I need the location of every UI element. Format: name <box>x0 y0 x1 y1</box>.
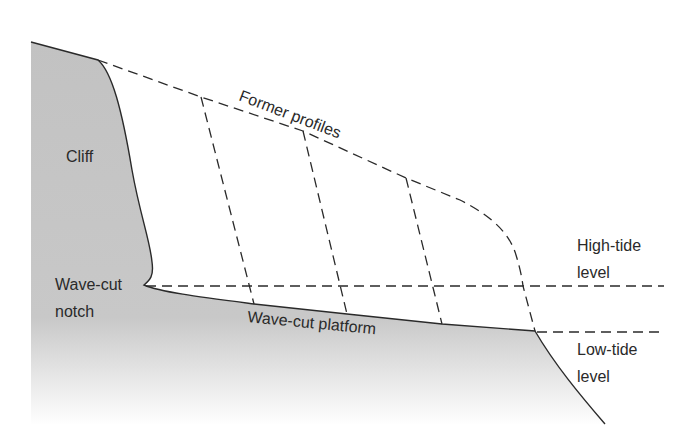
former-profile-line-3 <box>406 178 442 324</box>
former-profile-line-1 <box>201 97 254 304</box>
cliff-label: Cliff <box>66 148 94 165</box>
wave-cut-platform-diagram: Cliff Former profiles Wave-cut notch Wav… <box>0 0 700 445</box>
low-tide-label-line1: Low-tide <box>577 341 638 358</box>
low-tide-label-line2: level <box>577 368 610 385</box>
high-tide-label-line1: High-tide <box>577 237 641 254</box>
high-tide-label-line2: level <box>577 264 610 281</box>
wave-cut-notch-label-line2: notch <box>55 303 94 320</box>
wave-cut-notch-label-line1: Wave-cut <box>55 276 123 293</box>
